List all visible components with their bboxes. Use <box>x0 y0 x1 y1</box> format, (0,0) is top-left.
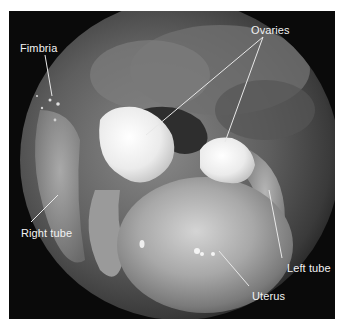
label-right-tube: Right tube <box>21 227 72 239</box>
label-ovaries: Ovaries <box>251 24 290 36</box>
label-uterus: Uterus <box>252 290 285 302</box>
laparoscopic-photo: Fimbria Ovaries Right tube Left tube Ute… <box>9 11 335 319</box>
label-fimbria: Fimbria <box>20 42 57 54</box>
label-left-tube: Left tube <box>287 262 331 274</box>
